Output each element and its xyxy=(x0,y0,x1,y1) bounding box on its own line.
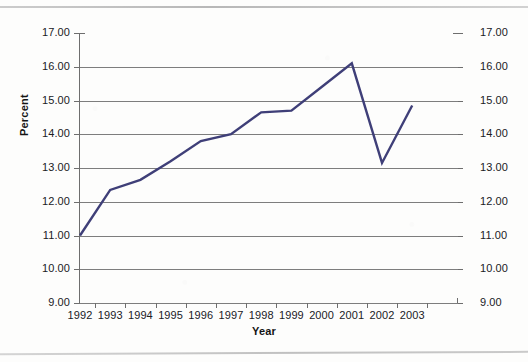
y-tick-label-right-12.00: 12.00 xyxy=(480,195,508,207)
y-tick-label-right-17.00: 17.00 xyxy=(480,26,508,38)
x-tick-1 xyxy=(95,303,96,308)
tick-right-13.00 xyxy=(458,168,463,169)
x-tick-6 xyxy=(246,303,247,308)
y-tick-label-left-17.00: 17.00 xyxy=(42,26,70,38)
tick-right-17.00 xyxy=(458,33,463,34)
page-bottom-border xyxy=(0,351,528,355)
tick-right-10.00 xyxy=(458,269,463,270)
plot-area: 17.0017.0016.0016.0015.0015.0014.0014.00… xyxy=(80,33,458,303)
y-tick-label-left-16.00: 16.00 xyxy=(42,60,70,72)
gridline-9.00 xyxy=(80,303,458,304)
tick-right-12.00 xyxy=(458,202,463,203)
tick-left-10.00 xyxy=(74,269,79,270)
y-tick-label-right-14.00: 14.00 xyxy=(480,127,508,139)
tick-right-14.00 xyxy=(458,134,463,135)
tick-left-14.00 xyxy=(74,134,79,135)
series-polyline xyxy=(80,63,412,235)
y-tick-label-left-15.00: 15.00 xyxy=(42,94,70,106)
y-tick-label-right-15.00: 15.00 xyxy=(480,94,508,106)
tick-left-9.00 xyxy=(74,303,79,304)
x-tick-label-2003: 2003 xyxy=(392,309,432,321)
tick-right-16.00 xyxy=(458,67,463,68)
x-tick-5 xyxy=(216,303,217,308)
x-tick-11 xyxy=(397,303,398,308)
x-axis-title: Year xyxy=(0,325,528,337)
y-tick-label-right-16.00: 16.00 xyxy=(480,60,508,72)
y-tick-label-right-10.00: 10.00 xyxy=(480,262,508,274)
x-tick-3 xyxy=(156,303,157,308)
x-tick-9 xyxy=(337,303,338,308)
tick-left-13.00 xyxy=(74,168,79,169)
tick-left-12.00 xyxy=(74,202,79,203)
y-tick-label-left-9.00: 9.00 xyxy=(48,296,70,308)
y-tick-label-left-11.00: 11.00 xyxy=(43,229,70,241)
x-tick-7 xyxy=(276,303,277,308)
y-axis-title: Percent xyxy=(18,94,30,136)
x-tick-10 xyxy=(367,303,368,308)
chart-page: Percent Year 17.0017.0016.0016.0015.0015… xyxy=(0,0,528,362)
y-tick-label-left-10.00: 10.00 xyxy=(42,262,70,274)
tick-left-11.00 xyxy=(74,236,79,237)
tick-left-15.00 xyxy=(74,101,79,102)
y-tick-label-right-11.00: 11.00 xyxy=(480,229,507,241)
y-tick-label-right-9.00: 9.00 xyxy=(480,296,502,308)
y-tick-label-left-13.00: 13.00 xyxy=(42,161,70,173)
x-tick-12 xyxy=(427,303,428,308)
x-tick-2 xyxy=(125,303,126,308)
tick-right-9.00 xyxy=(458,303,463,304)
tick-left-16.00 xyxy=(74,67,79,68)
tick-right-11.00 xyxy=(458,236,463,237)
tick-right-15.00 xyxy=(458,101,463,102)
y-tick-label-left-12.00: 12.00 xyxy=(42,195,70,207)
tick-left-17.00 xyxy=(74,33,79,34)
x-tick-4 xyxy=(186,303,187,308)
series-line-percent xyxy=(80,33,458,303)
y-tick-label-right-13.00: 13.00 xyxy=(480,161,508,173)
y-tick-label-left-14.00: 14.00 xyxy=(42,127,70,139)
x-tick-8 xyxy=(307,303,308,308)
page-top-border xyxy=(0,6,528,8)
